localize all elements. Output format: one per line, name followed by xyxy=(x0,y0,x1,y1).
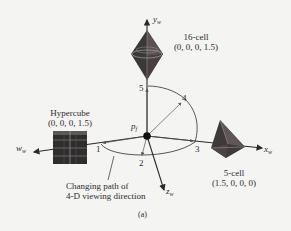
5-cell-shape xyxy=(211,120,245,158)
y-axis-label: yw xyxy=(153,14,161,27)
hypercube-shape xyxy=(53,131,87,164)
path-point-5: 5 xyxy=(139,83,144,93)
16-cell-shape xyxy=(131,30,163,80)
16-cell-coords: (0, 0, 0, 1.5) xyxy=(168,42,224,52)
origin-point xyxy=(143,132,151,140)
hypercube-name: Hypercube xyxy=(42,108,98,118)
path-caption: Changing path of 4-D viewing direction xyxy=(66,181,145,201)
z-axis-label: zw xyxy=(166,186,174,199)
5-cell-name: 5-cell xyxy=(204,168,264,178)
16-cell-name: 16-cell xyxy=(168,32,224,42)
hypercube-label: Hypercube (0, 0, 0, 1.5) xyxy=(42,108,98,128)
x-axis-label: xw xyxy=(264,144,272,157)
caption-pointer xyxy=(108,156,114,180)
path-point-4: 4 xyxy=(182,93,187,103)
origin-label: pf xyxy=(131,121,137,134)
path-caption-line1: Changing path of xyxy=(66,181,145,191)
5-cell-label: 5-cell (1.5, 0, 0, 0) xyxy=(204,168,264,188)
panel-label: (a) xyxy=(138,210,147,220)
path-point-2: 2 xyxy=(139,158,144,168)
w-axis-label: ww xyxy=(16,143,26,156)
path-point-1: 1 xyxy=(96,144,101,154)
path-caption-line2: 4-D viewing direction xyxy=(66,191,145,201)
z-axis xyxy=(147,136,164,190)
direction-arrow-1 xyxy=(103,136,147,143)
direction-arrow-4 xyxy=(147,103,181,136)
16-cell-label: 16-cell (0, 0, 0, 1.5) xyxy=(168,32,224,52)
path-point-3: 3 xyxy=(195,144,200,154)
hypercube-coords: (0, 0, 0, 1.5) xyxy=(42,118,98,128)
5-cell-coords: (1.5, 0, 0, 0) xyxy=(204,178,264,188)
direction-arrow-3 xyxy=(147,136,193,141)
